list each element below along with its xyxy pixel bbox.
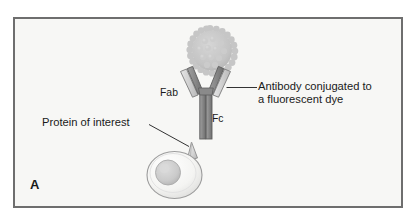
diagram-canvas bbox=[0, 0, 416, 222]
fluorescent-dye-icon bbox=[186, 25, 238, 77]
protein-leader-line bbox=[149, 125, 189, 147]
cell-nucleus bbox=[156, 160, 181, 185]
label-protein-of-interest: Protein of interest bbox=[42, 116, 130, 129]
antibody-fc-region bbox=[200, 90, 212, 139]
label-antibody-conjugate: Antibody conjugated to a fluorescent dye bbox=[258, 80, 372, 106]
antibody-icon bbox=[181, 66, 231, 139]
antibody-hinge bbox=[199, 88, 214, 95]
cell-icon bbox=[147, 142, 202, 199]
figure-root: Antibody conjugated to a fluorescent dye… bbox=[0, 0, 416, 222]
panel-letter-label: A bbox=[30, 177, 39, 192]
label-fc-region: Fc bbox=[212, 113, 224, 125]
nucleus-highlight bbox=[160, 164, 170, 174]
label-fab-region: Fab bbox=[160, 87, 178, 99]
